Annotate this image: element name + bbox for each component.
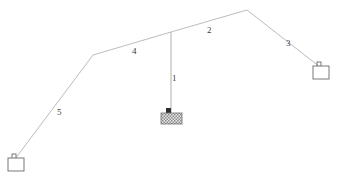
member-label-4: 4 [132,47,137,56]
member-label-5: 5 [57,108,62,117]
member-label-3: 3 [286,39,291,48]
frame-line-diagram-svg [0,0,338,176]
diagram-canvas: 1 2 3 4 5 [0,0,338,176]
support-right [313,62,329,79]
member-label-1: 1 [172,74,177,83]
member-3-line [247,10,320,67]
support-left [8,154,24,171]
member-label-2: 2 [207,26,212,35]
member-5-line [15,55,93,159]
